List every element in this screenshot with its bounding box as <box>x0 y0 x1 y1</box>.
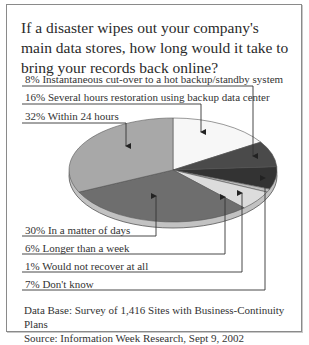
footer-database: Data Base: Survey of 1,416 Sites with Bu… <box>24 303 309 331</box>
pie-slices <box>69 118 277 222</box>
footer-source: Source: Information Week Research, Sept … <box>24 331 309 345</box>
chart-footer: Data Base: Survey of 1,416 Sites with Bu… <box>24 303 309 345</box>
